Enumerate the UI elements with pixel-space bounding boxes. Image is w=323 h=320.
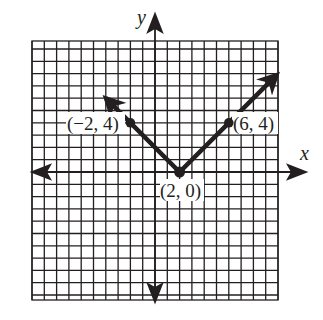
point-label-6-4: (6, 4) bbox=[233, 113, 274, 135]
x-axis-label: x bbox=[299, 142, 309, 164]
y-axis-label: y bbox=[135, 6, 146, 29]
graph: y x (−2, 4) (6, 4) (2, 0) bbox=[0, 0, 323, 320]
point-label-2-0: (2, 0) bbox=[160, 180, 201, 202]
axes bbox=[32, 14, 306, 302]
data-point bbox=[224, 118, 234, 128]
data-point bbox=[174, 167, 185, 178]
point-label-neg2-4: (−2, 4) bbox=[67, 113, 119, 135]
data-point bbox=[126, 118, 136, 128]
